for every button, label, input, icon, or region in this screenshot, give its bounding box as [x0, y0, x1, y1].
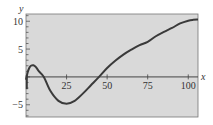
plot-area: [26, 14, 198, 117]
x-axis-label: x: [200, 71, 206, 82]
y-axis-tick-labels: −5510: [12, 16, 23, 111]
y-tick-label: 5: [18, 44, 23, 55]
line-chart: −5510 255075100 y x: [0, 0, 213, 125]
x-tick-label: 25: [62, 80, 72, 91]
y-axis-label: y: [18, 3, 24, 14]
y-tick-label: 10: [13, 16, 23, 27]
x-tick-label: 100: [181, 80, 196, 91]
x-tick-label: 75: [143, 80, 153, 91]
y-tick-label: −5: [12, 99, 23, 110]
x-tick-label: 50: [102, 80, 112, 91]
